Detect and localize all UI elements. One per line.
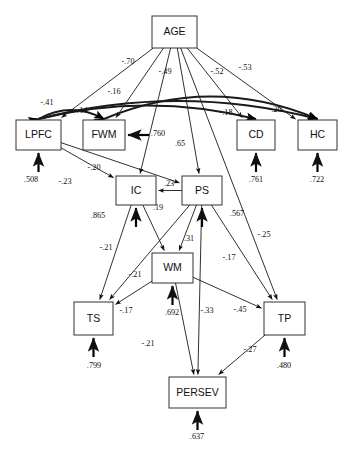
residual-wm: .692 <box>165 308 179 317</box>
coef-lpfc-ps: -.23 <box>59 177 72 186</box>
coef-ps-wm: .31 <box>184 234 194 243</box>
coef-wm-ts: -.17 <box>120 306 133 315</box>
residual-tp: .480 <box>277 361 291 370</box>
coef-age-lpfc: -.70 <box>122 57 135 66</box>
coef-ps-tp: -.17 <box>223 253 236 262</box>
path-WM-TP <box>193 277 262 308</box>
coef-tp-persev: -.27 <box>244 345 257 354</box>
path-PS-WM <box>179 205 196 251</box>
residual-hc: .722 <box>310 175 324 184</box>
correlation-FWM-HC <box>104 97 318 120</box>
coef-ps-ts: -.21 <box>129 270 142 279</box>
path-TP-PERSEV <box>219 335 265 375</box>
path-diagram: AGELPFCFWMCDHCICPSWMTSTPPERSEV -.70-.49-… <box>0 0 351 455</box>
node-label-ic: IC <box>131 184 142 196</box>
node-layer: AGELPFCFWMCDHCICPSWMTSTPPERSEV <box>16 16 337 408</box>
path-AGE-CD <box>187 48 242 118</box>
node-label-lpfc: LPFC <box>25 128 52 140</box>
coef-wm-persev: -.21 <box>142 339 155 348</box>
coef-age-ps: .65 <box>175 139 185 148</box>
node-label-persev: PERSEV <box>176 386 219 398</box>
residual-ts: .799 <box>87 361 101 370</box>
coef-ps-ic: .23 <box>164 179 174 188</box>
residual-persev: .637 <box>190 432 204 441</box>
residual-ps: .567 <box>230 209 244 218</box>
diagram-canvas: AGELPFCFWMCDHCICPSWMTSTPPERSEV -.70-.49-… <box>0 0 351 455</box>
coef-ic-wm: .19 <box>153 203 163 212</box>
node-label-cd: CD <box>248 128 264 140</box>
node-label-fwm: FWM <box>91 128 116 140</box>
residual-lpfc: .508 <box>24 175 38 184</box>
residual-cd: .761 <box>249 175 263 184</box>
node-label-ts: TS <box>87 312 100 324</box>
coef-age-fwm: -.49 <box>159 67 172 76</box>
coef-lpfc-ic: -.20 <box>88 163 101 172</box>
path-PS-TP <box>211 205 272 300</box>
node-label-hc: HC <box>310 128 326 140</box>
coef-age-ic: -.18 <box>220 108 233 117</box>
coef-age-cd: -.52 <box>211 67 224 76</box>
residual-fwm: .760 <box>151 129 165 138</box>
node-label-age: AGE <box>163 25 185 37</box>
coef-ps-persev: -.33 <box>201 306 214 315</box>
node-label-ps: PS <box>195 184 209 196</box>
corr-fwm-hc: -.20 <box>269 105 282 114</box>
node-label-tp: TP <box>278 312 291 324</box>
coef-wm-tp: -.45 <box>234 305 247 314</box>
path-WM-PERSEV <box>176 283 194 375</box>
corr-lpfc-hc: -.16 <box>108 87 121 96</box>
coef-ic-ts: -.21 <box>100 243 113 252</box>
node-label-wm: WM <box>163 261 182 273</box>
corr-lpfc-cd: -.41 <box>41 98 54 107</box>
coef-age-tp: -.25 <box>258 230 271 239</box>
coef-age-hc: -.53 <box>239 63 252 72</box>
path-WM-TS <box>116 281 153 304</box>
corr-lpfc-fwm: -.14 <box>75 106 88 115</box>
path-PS-PERSEV <box>198 205 202 375</box>
residual-ic: .865 <box>91 211 105 220</box>
